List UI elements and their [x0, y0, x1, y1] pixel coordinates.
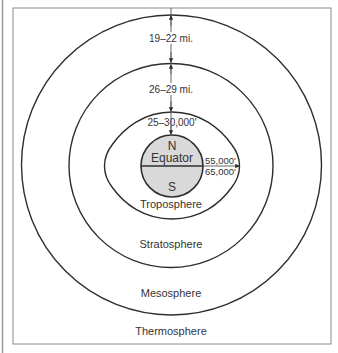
equator-label: Equator	[151, 151, 193, 165]
mesosphere-thickness-label: 19–22 mi.	[149, 33, 193, 44]
troposphere-equator-high-label: 65,000'	[205, 166, 236, 177]
troposphere-equator-low-label: 55,000'	[205, 155, 236, 166]
layer-label-stratosphere: Stratosphere	[140, 238, 203, 250]
troposphere-polar-height-label: 25–30,000'	[147, 117, 196, 128]
layer-label-troposphere: Troposphere	[140, 198, 202, 210]
stratosphere-thickness-label: 26–29 mi.	[149, 84, 193, 95]
layer-label-thermosphere: Thermosphere	[135, 325, 207, 337]
south-label: S	[168, 180, 176, 194]
layer-label-mesosphere: Mesosphere	[141, 287, 202, 299]
atmosphere-layers-diagram: 19–22 mi. 26–29 mi. 25–30,000' 55,000' 6…	[0, 0, 338, 353]
